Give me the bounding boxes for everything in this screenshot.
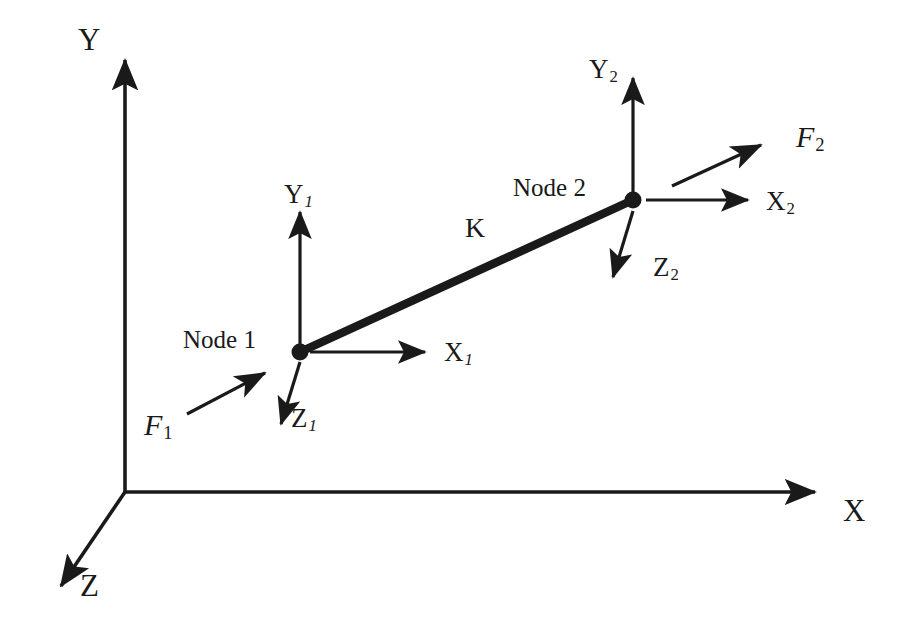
node1-z-axis-subscript: 1 — [308, 416, 317, 435]
node2-z-axis-subscript: 2 — [670, 265, 679, 284]
node2-y-axis-subscript: 2 — [609, 67, 618, 86]
force-2-subscript: 2 — [814, 134, 824, 155]
node2-local-axes — [613, 78, 748, 277]
node2-z-axis-label: Z2 — [653, 254, 679, 283]
node1-x-axis-letter: X — [444, 337, 464, 367]
force-1-arrow — [187, 373, 265, 414]
global-z-axis-label: Z — [80, 570, 99, 601]
node2-y-axis-label: Y2 — [589, 56, 618, 85]
node-1-label: Node 1 — [183, 327, 256, 352]
node1-z-axis-letter: Z — [291, 403, 308, 433]
force-1-label: F1 — [144, 410, 173, 443]
global-y-axis-label: Y — [78, 24, 100, 55]
node-2-marker — [625, 192, 642, 209]
node2-x-axis-subscript: 2 — [786, 199, 795, 218]
force-1-symbol: F — [144, 408, 162, 441]
node1-y-axis-subscript: 1 — [304, 192, 313, 211]
global-x-axis-label: X — [843, 495, 865, 526]
force-2-label: F2 — [796, 122, 825, 155]
node1-z-axis-label: Z1 — [291, 405, 317, 434]
stiffness-label: K — [465, 214, 485, 242]
node-1-marker — [292, 344, 309, 361]
node-2-label: Node 2 — [513, 175, 586, 200]
node1-local-axes — [281, 212, 425, 424]
node1-y-axis-label: Y1 — [284, 181, 313, 210]
node1-x-axis-subscript: 1 — [464, 350, 473, 369]
force-2-symbol: F — [796, 120, 814, 153]
force-1-subscript: 1 — [162, 422, 172, 443]
node2-x-axis-letter: X — [766, 186, 786, 216]
node1-x-axis-label: X1 — [444, 339, 473, 368]
force-2-arrow — [672, 145, 761, 186]
diagram-canvas — [0, 0, 918, 633]
node2-x-axis-label: X2 — [766, 188, 795, 217]
node2-y-axis-letter: Y — [589, 54, 609, 84]
beam-element-diagram: Y X Z K Node 1 Node 2 Y1 X1 Z1 Y2 X2 Z2 … — [0, 0, 918, 633]
node1-y-axis-letter: Y — [284, 179, 304, 209]
node2-z-axis-arrow — [613, 211, 633, 277]
node2-z-axis-letter: Z — [653, 252, 670, 282]
